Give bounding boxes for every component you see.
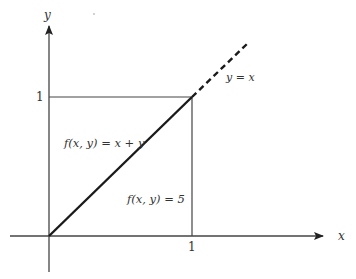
region-diagram: y x 1 1 y = x f(x, y) = x + y f(x, y) = … — [0, 0, 356, 279]
y-axis-label: y — [43, 8, 51, 22]
diagonal-dashed-extension — [192, 43, 248, 97]
y-tick-label: 1 — [36, 90, 44, 104]
region-label-below: f(x, y) = 5 — [126, 192, 185, 206]
diagonal-solid-line — [49, 97, 192, 236]
x-axis-label: x — [338, 229, 345, 243]
x-tick-label: 1 — [188, 240, 196, 254]
line-label: y = x — [225, 71, 255, 84]
speck-mark — [93, 13, 95, 15]
region-label-above: f(x, y) = x + y — [63, 136, 145, 150]
